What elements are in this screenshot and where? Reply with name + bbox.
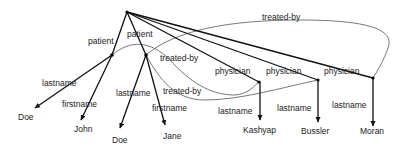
label-firstname-2: firstname <box>152 103 187 113</box>
label-lastname-3: lastname <box>218 106 253 116</box>
physician-node-3 <box>371 76 374 79</box>
value-doe-2: Doe <box>112 135 128 145</box>
xml-graph-diagram: patient patient treated-by treated-by tr… <box>0 0 407 151</box>
root-node <box>125 10 128 13</box>
label-lastname-5: lastname <box>332 100 367 110</box>
patient-edge-1 <box>112 12 127 55</box>
physician-node-1 <box>257 80 260 83</box>
value-moran: Moran <box>360 126 384 136</box>
label-physician-2: physician <box>266 66 302 76</box>
label-physician-3: physician <box>324 66 360 76</box>
label-lastname-4: lastname <box>277 103 312 113</box>
label-physician-1: physician <box>215 66 251 76</box>
value-jane: Jane <box>163 131 182 141</box>
label-patient-1: patient <box>88 36 114 46</box>
label-treated-by-top: treated-by <box>262 12 301 22</box>
value-bussler: Bussler <box>301 126 330 136</box>
label-firstname-1: firstname <box>62 99 97 109</box>
label-lastname-2: lastname <box>116 88 151 98</box>
patient-node-1 <box>110 53 114 57</box>
label-lastname-1: lastname <box>42 78 77 88</box>
value-john: John <box>74 124 93 134</box>
patient-node-2 <box>144 53 148 57</box>
physician-node-2 <box>316 78 319 81</box>
firstname-edge-1 <box>81 55 112 120</box>
value-doe-1: Doe <box>18 112 34 122</box>
label-patient-2: patient <box>127 29 153 39</box>
label-treated-by-low: treated-by <box>163 86 202 96</box>
value-kashyap: Kashyap <box>243 125 276 135</box>
label-treated-by-mid: treated-by <box>160 53 199 63</box>
